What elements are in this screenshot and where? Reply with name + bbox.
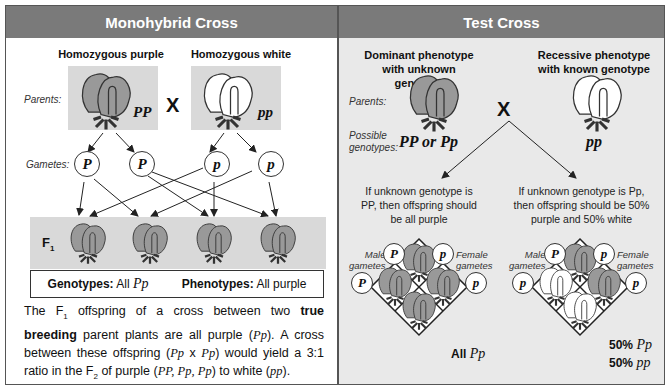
male-gametes-label: Malegametes [349, 249, 385, 271]
right-result: 50% Pp 50% pp [609, 336, 652, 372]
outcome-left-note: If unknown genotype isPP, then offspring… [359, 184, 479, 226]
male-gametes-label: Malegametes [509, 249, 545, 271]
male-gamete-1: P [544, 243, 566, 265]
female-gamete-1: p [593, 243, 615, 265]
phenotypes-value: All purple [256, 277, 306, 291]
f1-summary-box: Genotypes: All Pp Phenotypes: All purple [30, 270, 324, 298]
female-gamete-1: p [432, 243, 454, 265]
f1-flower-icon [71, 224, 105, 264]
monohybrid-cross-panel: Monohybrid Cross Homozygous purple Homoz… [5, 5, 338, 385]
female-gamete-2: p [465, 272, 487, 294]
dominant-flower-icon [411, 76, 459, 131]
female-gametes-label: Femalegametes [456, 249, 492, 271]
f1-flower-icon [261, 224, 295, 264]
male-gamete-2: p [512, 272, 534, 294]
genotypes-label: Genotypes: [48, 277, 114, 291]
left-result: All Pp [451, 346, 485, 362]
male-gamete-2: P [351, 272, 373, 294]
male-gamete-1: P [383, 243, 405, 265]
genotypes-value: Pp [133, 276, 149, 291]
f1-flower-icon [133, 224, 167, 264]
female-gametes-label: Femalegametes [617, 249, 653, 271]
recessive-flower-icon [574, 76, 622, 131]
phenotypes-label: Phenotypes: [182, 277, 254, 291]
f1-flower-icon [197, 224, 231, 264]
test-cross-panel: Test Cross Dominant phenotypewith unknow… [338, 5, 665, 385]
female-gamete-2: p [625, 272, 647, 294]
monohybrid-description: The F1 offspring of a cross between two … [24, 302, 324, 385]
outcome-right-note: If unknown genotype is Pp,then offspring… [509, 184, 654, 226]
